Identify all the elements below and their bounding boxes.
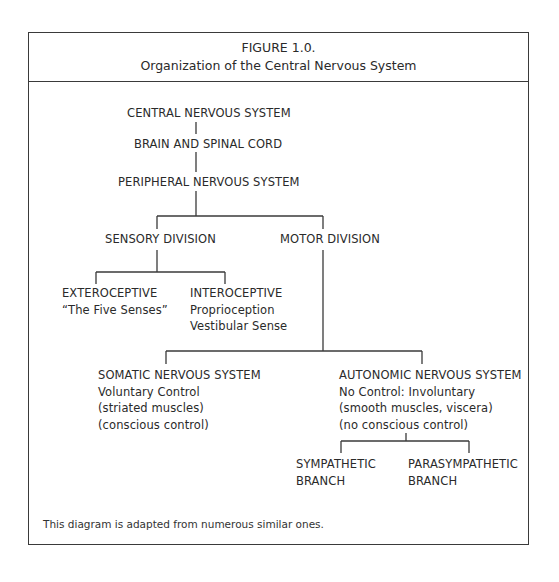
node-pns-line: PERIPHERAL NERVOUS SYSTEM bbox=[118, 174, 300, 191]
node-pns: PERIPHERAL NERVOUS SYSTEM bbox=[118, 174, 300, 191]
node-cns-line: CENTRAL NERVOUS SYSTEM bbox=[127, 105, 291, 122]
node-autonomic: AUTONOMIC NERVOUS SYSTEM No Control: Inv… bbox=[339, 367, 522, 433]
node-autonomic-line: (smooth muscles, viscera) bbox=[339, 400, 522, 417]
node-interoceptive-line: INTEROCEPTIVE bbox=[190, 285, 287, 302]
node-cns: CENTRAL NERVOUS SYSTEM bbox=[127, 105, 291, 122]
node-somatic-line: SOMATIC NERVOUS SYSTEM bbox=[98, 367, 261, 384]
figure-footnote: This diagram is adapted from numerous si… bbox=[43, 518, 324, 530]
node-sympathetic-line: BRANCH bbox=[296, 473, 376, 490]
node-exteroceptive-line: EXTEROCEPTIVE bbox=[62, 285, 168, 302]
node-somatic-line: (striated muscles) bbox=[98, 400, 261, 417]
node-somatic-line: (conscious control) bbox=[98, 417, 261, 434]
node-sympathetic-line: SYMPATHETIC bbox=[296, 456, 376, 473]
node-parasympathetic-line: PARASYMPATHETIC bbox=[408, 456, 518, 473]
node-sensory-line: SENSORY DIVISION bbox=[105, 231, 216, 248]
node-somatic: SOMATIC NERVOUS SYSTEM Voluntary Control… bbox=[98, 367, 261, 433]
node-sympathetic: SYMPATHETIC BRANCH bbox=[296, 456, 376, 489]
node-sensory-division: SENSORY DIVISION bbox=[105, 231, 216, 248]
node-motor-division: MOTOR DIVISION bbox=[280, 231, 380, 248]
node-parasympathetic: PARASYMPATHETIC BRANCH bbox=[408, 456, 518, 489]
node-exteroceptive: EXTEROCEPTIVE “The Five Senses” bbox=[62, 285, 168, 318]
node-interoceptive-line: Vestibular Sense bbox=[190, 318, 287, 335]
node-autonomic-line: No Control: Involuntary bbox=[339, 384, 522, 401]
node-autonomic-line: (no conscious control) bbox=[339, 417, 522, 434]
node-interoceptive: INTEROCEPTIVE Proprioception Vestibular … bbox=[190, 285, 287, 335]
node-brain-spinal-cord: BRAIN AND SPINAL CORD bbox=[134, 136, 282, 153]
node-exteroceptive-line: “The Five Senses” bbox=[62, 302, 168, 319]
node-somatic-line: Voluntary Control bbox=[98, 384, 261, 401]
node-motor-line: MOTOR DIVISION bbox=[280, 231, 380, 248]
node-brain-line: BRAIN AND SPINAL CORD bbox=[134, 136, 282, 153]
node-interoceptive-line: Proprioception bbox=[190, 302, 287, 319]
node-parasympathetic-line: BRANCH bbox=[408, 473, 518, 490]
node-autonomic-line: AUTONOMIC NERVOUS SYSTEM bbox=[339, 367, 522, 384]
